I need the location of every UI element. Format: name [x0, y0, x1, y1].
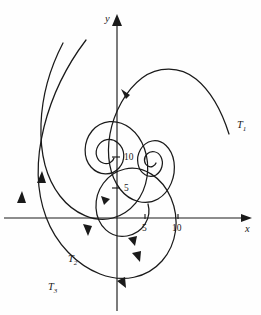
arrowhead-t2-down [83, 224, 92, 236]
curve-label-t1: T1 [237, 119, 246, 133]
arrowhead-inner-left [101, 196, 110, 205]
y-axis-tick-label-10: 10 [124, 152, 134, 162]
curve-label-t2: T2 [68, 253, 78, 267]
x-axis-label: x [244, 223, 250, 234]
phase-portrait-figure: 510 510 x y T1 T2 T3 [0, 0, 261, 315]
trajectory-curve-t3 [38, 40, 176, 278]
y-axis-arrowhead [112, 14, 122, 26]
x-axis-tick-label-10: 10 [172, 223, 182, 233]
trajectory-curve-t2 [41, 43, 148, 219]
axes-group: 510 510 [4, 14, 252, 311]
y-axis-tick-label-5: 5 [124, 183, 129, 193]
arrowhead-t3-up [17, 191, 26, 203]
direction-arrowheads-group [17, 89, 141, 288]
arrowhead-spiral-down [132, 251, 141, 262]
arrowhead-inner-down [128, 236, 137, 246]
x-axis-arrowhead [241, 214, 252, 222]
curve-label-t3: T3 [48, 281, 58, 295]
phase-portrait-svg: 510 510 x y T1 T2 T3 [0, 0, 261, 315]
y-axis-label: y [104, 13, 110, 24]
